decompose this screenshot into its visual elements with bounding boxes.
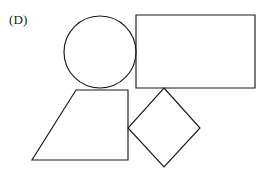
diamond-shape	[128, 88, 200, 167]
circle-shape	[64, 16, 136, 88]
trapezoid-shape	[32, 90, 128, 160]
rectangle-shape	[136, 15, 255, 88]
shapes-canvas	[0, 0, 266, 191]
figure-panel: (D)	[0, 0, 266, 191]
